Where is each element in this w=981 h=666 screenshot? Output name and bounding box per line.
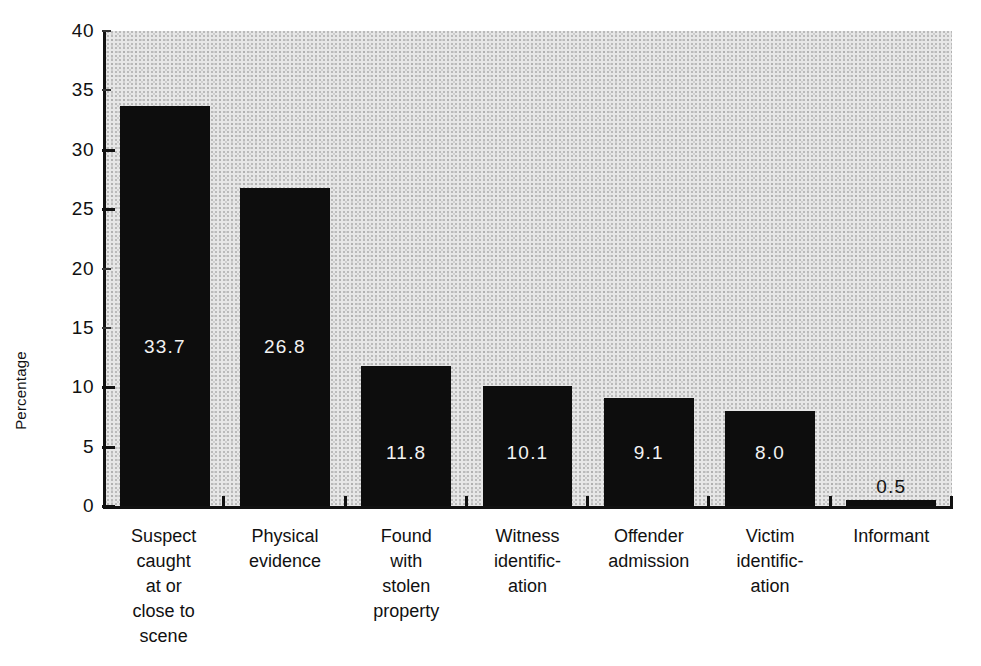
y-axis-tick-label: 30 — [44, 140, 94, 159]
y-axis-tick-mark — [102, 268, 111, 270]
x-axis-label-line: admission — [588, 549, 709, 574]
x-axis-label-line: Offender — [588, 524, 709, 549]
y-axis-tick-labels: 0510152025303540 — [44, 0, 94, 666]
x-axis-tick-mark — [222, 496, 225, 509]
x-axis-label-line: ation — [467, 574, 588, 599]
x-axis-label-line: Physical — [224, 524, 345, 549]
bar: 8.0 — [725, 411, 815, 506]
x-axis-label-line: Witness — [467, 524, 588, 549]
y-axis-tick-label: 5 — [44, 437, 94, 456]
x-axis-tick-mark — [707, 496, 710, 509]
bar-value-label: 9.1 — [604, 442, 694, 464]
y-axis-tick-label: 20 — [44, 259, 94, 278]
x-axis-label-line: property — [346, 599, 467, 624]
y-axis-tick-label: 10 — [44, 377, 94, 396]
y-axis-title-text: Percentage — [12, 351, 29, 430]
x-axis-label-line: scene — [103, 624, 224, 649]
bar — [846, 500, 936, 506]
y-axis-tick-label: 25 — [44, 199, 94, 218]
x-axis-label-line: Suspect — [103, 524, 224, 549]
bar-value-label: 11.8 — [361, 442, 451, 464]
x-axis-category-label: Physicalevidence — [224, 524, 345, 574]
bar: 10.1 — [483, 386, 573, 506]
bar: 11.8 — [361, 366, 451, 506]
bar: 33.7 — [120, 106, 210, 506]
x-axis-tick-mark — [465, 496, 468, 509]
y-axis-tick-label: 0 — [44, 496, 94, 515]
y-axis-tick-mark — [102, 446, 115, 449]
x-axis-category-label: Victimidentific-ation — [709, 524, 830, 599]
bar-chart: Percentage 0510152025303540 33.726.811.8… — [0, 0, 981, 666]
bar: 26.8 — [240, 188, 330, 506]
x-axis-tick-mark — [950, 496, 953, 509]
x-axis-label-line: close to — [103, 599, 224, 624]
y-axis-tick-mark — [102, 386, 115, 389]
y-axis-tick-mark — [102, 327, 111, 329]
x-axis-label-line: identific- — [467, 549, 588, 574]
y-axis-tick-label: 40 — [44, 21, 94, 40]
x-axis-label-line: identific- — [709, 549, 830, 574]
x-axis-label-line: stolen — [346, 574, 467, 599]
x-axis-category-label: Witnessidentific-ation — [467, 524, 588, 599]
x-axis-category-label: Foundwithstolenproperty — [346, 524, 467, 624]
y-axis-line — [103, 31, 106, 509]
plot-area: 33.726.811.810.19.18.00.5 — [103, 31, 952, 509]
bar-value-label: 0.5 — [846, 476, 936, 498]
bar-value-label: 8.0 — [725, 442, 815, 464]
x-axis-category-label: Suspectcaughtat orclose toscene — [103, 524, 224, 649]
bar-value-label: 10.1 — [483, 442, 573, 464]
y-axis-tick-label: 15 — [44, 318, 94, 337]
bar: 9.1 — [604, 398, 694, 506]
x-axis-category-label: Offenderadmission — [588, 524, 709, 574]
x-axis-category-labels: Suspectcaughtat orclose toscenePhysicale… — [103, 524, 952, 666]
x-axis-tick-mark — [829, 496, 832, 509]
y-axis-title: Percentage — [0, 300, 40, 480]
x-axis-label-line: with — [346, 549, 467, 574]
x-axis-label-line: evidence — [224, 549, 345, 574]
y-axis-tick-mark — [102, 89, 111, 91]
x-axis-category-label: Informant — [831, 524, 952, 549]
bar-value-label: 26.8 — [240, 336, 330, 358]
y-axis-tick-mark — [102, 30, 111, 32]
bar-value-label: 33.7 — [120, 336, 210, 358]
y-axis-tick-mark — [102, 149, 115, 152]
x-axis-label-line: at or — [103, 574, 224, 599]
y-axis-tick-mark — [102, 208, 115, 211]
y-axis-tick-mark — [102, 505, 115, 508]
x-axis-line — [103, 506, 952, 509]
x-axis-label-line: Informant — [831, 524, 952, 549]
x-axis-tick-mark — [586, 496, 589, 509]
x-axis-label-line: ation — [709, 574, 830, 599]
x-axis-label-line: caught — [103, 549, 224, 574]
x-axis-label-line: Found — [346, 524, 467, 549]
x-axis-tick-mark — [344, 496, 347, 509]
y-axis-tick-label: 35 — [44, 80, 94, 99]
x-axis-label-line: Victim — [709, 524, 830, 549]
